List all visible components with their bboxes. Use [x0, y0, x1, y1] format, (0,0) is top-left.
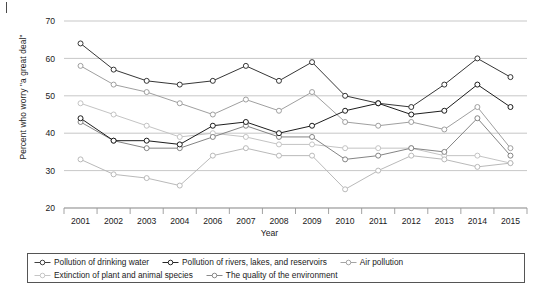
legend-marker-icon [34, 258, 51, 267]
x-tick-label: 2015 [501, 216, 520, 226]
data-point [343, 119, 348, 124]
legend-marker-icon [162, 258, 179, 267]
x-axis-label: Year [0, 228, 539, 238]
data-point [144, 146, 149, 151]
legend-label: Air pollution [360, 257, 403, 268]
data-point [310, 153, 315, 158]
x-tick-label: 2013 [435, 216, 454, 226]
data-point [210, 153, 215, 158]
data-point [144, 138, 149, 143]
series-3 [78, 63, 513, 150]
x-tick-label: 2012 [402, 216, 421, 226]
data-point [243, 97, 248, 102]
chart-legend: Pollution of drinking waterPollution of … [27, 253, 525, 283]
data-point [310, 142, 315, 147]
data-point [442, 127, 447, 132]
line-chart: 2030405060702001200220032004200620072008… [0, 0, 539, 248]
data-point [243, 119, 248, 124]
figure-root: 2030405060702001200220032004200620072008… [0, 0, 539, 288]
x-tick-label: 2010 [336, 216, 355, 226]
data-point [409, 119, 414, 124]
data-point [111, 82, 116, 87]
data-point [343, 146, 348, 151]
x-tick-label: 2008 [269, 216, 288, 226]
data-point [243, 63, 248, 68]
data-point [475, 105, 480, 110]
data-point [343, 108, 348, 113]
series-6 [78, 146, 513, 192]
data-point [508, 146, 513, 151]
data-point [243, 134, 248, 139]
data-point [310, 90, 315, 95]
series-line [81, 43, 511, 107]
legend-item[interactable]: Pollution of rivers, lakes, and reservoi… [162, 257, 327, 268]
data-point [409, 146, 414, 151]
data-point [376, 101, 381, 106]
data-point [144, 90, 149, 95]
data-point [310, 134, 315, 139]
data-point [210, 134, 215, 139]
y-tick-label: 20 [45, 203, 55, 213]
data-point [276, 131, 281, 136]
data-point [210, 112, 215, 117]
legend-marker-icon [340, 258, 357, 267]
data-point [177, 82, 182, 87]
data-point [276, 78, 281, 83]
data-point [111, 67, 116, 72]
x-tick-label: 2006 [203, 216, 222, 226]
data-point [210, 78, 215, 83]
data-point [243, 146, 248, 151]
data-point [376, 153, 381, 158]
legend-item[interactable]: The quality of the environment [206, 270, 338, 281]
legend-item[interactable]: Extinction of plant and animal species [34, 270, 193, 281]
data-point [475, 82, 480, 87]
data-point [442, 149, 447, 154]
data-point [442, 108, 447, 113]
data-point [343, 93, 348, 98]
legend-row: Pollution of drinking waterPollution of … [34, 256, 524, 269]
data-point [475, 153, 480, 158]
data-point [508, 153, 513, 158]
data-point [343, 187, 348, 192]
data-point [442, 157, 447, 162]
data-point [177, 183, 182, 188]
series-5 [78, 116, 513, 162]
data-point [442, 82, 447, 87]
data-point [276, 108, 281, 113]
legend-item[interactable]: Pollution of drinking water [34, 257, 149, 268]
data-point [144, 78, 149, 83]
data-point [409, 105, 414, 110]
data-point [343, 157, 348, 162]
data-point [78, 41, 83, 46]
x-tick-label: 2011 [369, 216, 388, 226]
data-point [475, 164, 480, 169]
series-1 [78, 41, 513, 110]
y-tick-label: 50 [45, 91, 55, 101]
data-point [78, 63, 83, 68]
y-tick-label: 30 [45, 166, 55, 176]
data-point [276, 153, 281, 158]
data-point [376, 123, 381, 128]
legend-label: Extinction of plant and animal species [54, 270, 193, 281]
data-point [310, 123, 315, 128]
data-point [78, 116, 83, 121]
y-axis-label: Percent who worry "a great deal" [18, 12, 28, 182]
legend-item[interactable]: Air pollution [340, 257, 403, 268]
data-point [475, 116, 480, 121]
data-point [508, 161, 513, 166]
data-point [177, 101, 182, 106]
data-point [409, 112, 414, 117]
data-point [310, 60, 315, 65]
x-tick-label: 2001 [71, 216, 90, 226]
data-point [144, 123, 149, 128]
x-tick-label: 2004 [170, 216, 189, 226]
data-point [475, 56, 480, 61]
data-point [508, 105, 513, 110]
data-point [111, 172, 116, 177]
series-line [81, 66, 511, 148]
data-point [409, 153, 414, 158]
data-point [508, 75, 513, 80]
data-point [111, 138, 116, 143]
legend-row: Extinction of plant and animal speciesTh… [34, 269, 524, 282]
data-point [376, 168, 381, 173]
